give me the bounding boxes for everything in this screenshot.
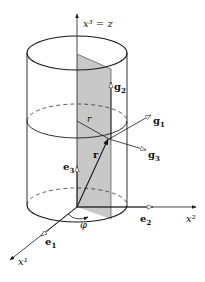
x1-axis-label: x¹ xyxy=(18,256,28,267)
x2-axis-label: x² xyxy=(186,213,196,224)
cylindrical-coordinates-figure: x³ = z g2 g1 g3 r r e3 e2 e1 φ x² x¹ xyxy=(0,0,205,282)
g1-vector xyxy=(109,115,151,139)
e2-label: e2 xyxy=(140,213,151,227)
radius-label: r xyxy=(87,114,92,124)
phi-label: φ xyxy=(80,219,87,230)
g1-label: g1 xyxy=(153,115,165,129)
g2-label: g2 xyxy=(114,81,126,95)
e1-label: e1 xyxy=(45,236,56,250)
g3-vector xyxy=(109,139,146,150)
e3-label: e3 xyxy=(63,161,74,175)
g3-label: g3 xyxy=(148,149,160,163)
meridional-plane xyxy=(77,54,111,219)
position-vector-label: r xyxy=(93,149,99,160)
x3-axis-label: x³ = z xyxy=(83,18,113,29)
bottom-ellipse-front xyxy=(27,205,127,222)
